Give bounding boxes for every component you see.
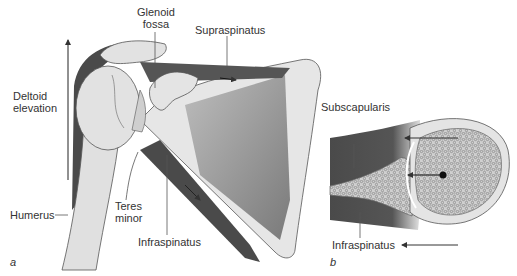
label-glenoid-fossa: Glenoid fossa [137,6,175,30]
panel-a-drawing [55,32,321,270]
panel-a-letter: a [10,256,16,268]
label-subscapularis: Subscapularis [321,101,390,113]
shoulder-anatomy-figure: Glenoid fossa Supraspinatus Deltoid elev… [0,0,517,276]
label-infraspinatus-b: Infraspinatus [332,239,395,251]
label-supraspinatus: Supraspinatus [195,24,265,36]
label-teres-line1: Teres [115,200,143,212]
label-teres-line2: minor [115,212,143,224]
label-teres-minor: Teres minor [115,200,143,224]
label-deltoid-line2: elevation [13,102,57,114]
label-glenoid-line1: Glenoid [137,6,175,18]
label-deltoid-line1: Deltoid [13,90,57,102]
label-glenoid-line2: fossa [137,18,175,30]
label-humerus: Humerus [10,209,55,221]
label-infraspinatus-a: Infraspinatus [138,236,201,248]
anatomy-illustration [0,0,517,276]
panel-b-letter: b [330,256,336,268]
label-deltoid-elevation: Deltoid elevation [13,90,57,114]
panel-b-drawing [330,119,509,245]
